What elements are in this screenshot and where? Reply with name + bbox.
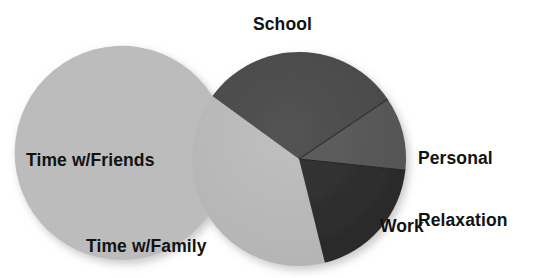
pie-label-personal-relaxation: Personal Relaxation: [418, 107, 508, 272]
pie-label-time-w-friends: Time w/Friends: [26, 150, 154, 171]
pie-chart-figure: School Personal Relaxation Work Time w/F…: [0, 0, 544, 278]
pie-label-work: Work: [380, 216, 424, 237]
pie-label-personal-relaxation-line1: Personal: [418, 148, 508, 169]
pie-label-time-w-family: Time w/Family: [86, 236, 207, 257]
pie-label-school: School: [253, 14, 312, 35]
pie-label-personal-relaxation-line2: Relaxation: [418, 210, 508, 231]
